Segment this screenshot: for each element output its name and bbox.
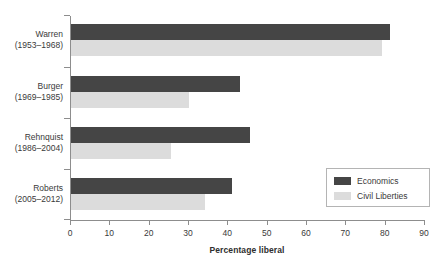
category-label-warren: Warren(1953–1968) — [0, 29, 63, 51]
x-axis-tick-label: 50 — [252, 228, 282, 238]
bar-economics — [71, 178, 232, 194]
y-axis-tick — [64, 118, 70, 119]
legend-label-economics: Economics — [357, 176, 399, 186]
bar-economics — [71, 76, 240, 92]
legend-swatch-civil-liberties — [334, 192, 351, 200]
x-axis-tick-label: 70 — [330, 228, 360, 238]
x-axis-tick — [188, 220, 189, 225]
x-axis-line — [70, 220, 424, 221]
bar-civil-liberties — [71, 194, 205, 210]
category-years: (1986–2004) — [0, 143, 63, 154]
x-axis-tick — [70, 220, 71, 225]
x-axis-tick-label: 20 — [134, 228, 164, 238]
bar-civil-liberties — [71, 143, 171, 159]
bar-chart: Warren(1953–1968)Burger(1969–1985)Rehnqu… — [0, 0, 437, 269]
bar-civil-liberties — [71, 40, 382, 56]
category-label-rehnquist: Rehnquist(1986–2004) — [0, 132, 63, 154]
x-axis-tick-label: 10 — [94, 228, 124, 238]
x-axis-tick-label: 60 — [291, 228, 321, 238]
chart-legend: Economics Civil Liberties — [326, 168, 430, 207]
y-axis-tick — [64, 169, 70, 170]
x-axis-tick — [424, 220, 425, 225]
x-axis-tick-label: 30 — [173, 228, 203, 238]
x-axis-tick-label: 40 — [212, 228, 242, 238]
category-name: Warren — [0, 29, 63, 40]
x-axis-tick — [267, 220, 268, 225]
category-years: (1969–1985) — [0, 92, 63, 103]
legend-item-civil-liberties: Civil Liberties — [334, 189, 408, 203]
category-years: (1953–1968) — [0, 40, 63, 51]
legend-label-civil-liberties: Civil Liberties — [357, 191, 408, 201]
y-axis-tick — [64, 15, 70, 16]
category-name: Rehnquist — [0, 132, 63, 143]
x-axis-tick — [109, 220, 110, 225]
x-axis-tick-label: 90 — [409, 228, 437, 238]
x-axis-tick — [306, 220, 307, 225]
bar-economics — [71, 24, 390, 40]
legend-item-economics: Economics — [334, 174, 399, 188]
bar-economics — [71, 127, 250, 143]
x-axis-tick-label: 0 — [55, 228, 85, 238]
category-label-roberts: Roberts(2005–2012) — [0, 183, 63, 205]
category-name: Roberts — [0, 183, 63, 194]
bar-civil-liberties — [71, 92, 189, 108]
y-axis-tick — [64, 67, 70, 68]
x-axis-title: Percentage liberal — [70, 245, 424, 255]
x-axis-tick — [385, 220, 386, 225]
x-axis-tick-label: 80 — [370, 228, 400, 238]
category-name: Burger — [0, 81, 63, 92]
category-label-burger: Burger(1969–1985) — [0, 81, 63, 103]
category-years: (2005–2012) — [0, 194, 63, 205]
x-axis-tick — [345, 220, 346, 225]
legend-swatch-economics — [334, 177, 351, 185]
x-axis-tick — [227, 220, 228, 225]
x-axis-tick — [149, 220, 150, 225]
